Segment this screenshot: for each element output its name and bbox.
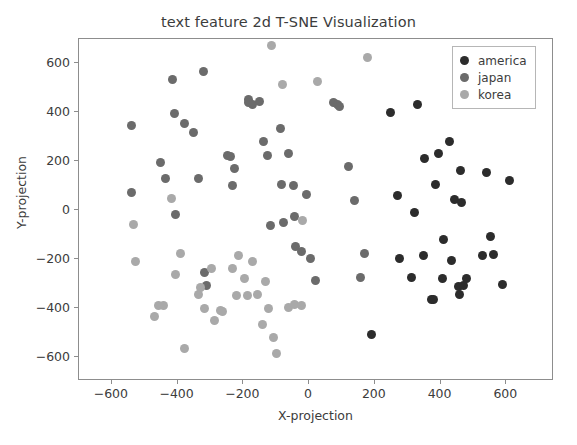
scatter-point bbox=[297, 247, 306, 256]
x-axis-tick-label: 0 bbox=[304, 386, 312, 401]
legend-marker-icon bbox=[460, 90, 469, 99]
scatter-point bbox=[277, 180, 286, 189]
scatter-point bbox=[258, 320, 267, 329]
scatter-point bbox=[228, 264, 237, 273]
legend-marker-icon bbox=[460, 56, 469, 65]
y-axis-tick bbox=[74, 209, 78, 210]
x-axis-tick bbox=[177, 380, 178, 384]
legend-item-korea: korea bbox=[460, 86, 527, 103]
scatter-point bbox=[284, 149, 293, 158]
y-axis-tick bbox=[74, 62, 78, 63]
legend-marker-icon bbox=[460, 73, 469, 82]
scatter-point bbox=[156, 158, 165, 167]
scatter-point bbox=[248, 257, 257, 266]
scatter-point bbox=[413, 100, 422, 109]
legend-item-label: korea bbox=[478, 88, 511, 102]
y-axis-tick bbox=[74, 111, 78, 112]
y-axis-tick bbox=[74, 160, 78, 161]
scatter-point bbox=[344, 162, 353, 171]
scatter-point bbox=[393, 191, 402, 200]
scatter-point bbox=[272, 349, 281, 358]
scatter-point bbox=[218, 307, 227, 316]
scatter-point bbox=[259, 137, 268, 146]
x-axis-tick-label: 400 bbox=[428, 386, 452, 401]
scatter-point bbox=[356, 273, 365, 282]
scatter-point bbox=[407, 273, 416, 282]
scatter-point bbox=[199, 67, 208, 76]
x-axis-tick bbox=[308, 380, 309, 384]
scatter-point bbox=[232, 291, 241, 300]
scatter-point bbox=[234, 251, 243, 260]
scatter-point bbox=[230, 164, 239, 173]
scatter-point bbox=[429, 295, 438, 304]
scatter-point bbox=[447, 256, 456, 265]
scatter-point bbox=[200, 304, 209, 313]
scatter-point bbox=[210, 316, 219, 325]
scatter-point bbox=[489, 250, 498, 259]
scatter-point bbox=[298, 216, 307, 225]
x-axis-tick-label: 600 bbox=[493, 386, 517, 401]
scatter-point bbox=[276, 124, 285, 133]
legend-item-label: japan bbox=[478, 71, 511, 85]
scatter-point bbox=[482, 168, 491, 177]
scatter-point bbox=[456, 166, 465, 175]
scatter-point bbox=[207, 264, 216, 273]
scatter-point bbox=[264, 304, 273, 313]
scatter-point bbox=[505, 176, 514, 185]
scatter-point bbox=[395, 254, 404, 263]
scatter-point bbox=[278, 80, 287, 89]
scatter-point bbox=[159, 301, 168, 310]
scatter-point bbox=[176, 249, 185, 258]
x-axis-tick-label: −400 bbox=[159, 386, 193, 401]
scatter-point bbox=[455, 290, 464, 299]
scatter-point bbox=[263, 151, 272, 160]
x-axis-label: X-projection bbox=[78, 408, 553, 423]
scatter-point bbox=[240, 274, 249, 283]
scatter-point bbox=[261, 277, 270, 286]
scatter-point bbox=[255, 97, 264, 106]
scatter-point bbox=[267, 41, 276, 50]
scatter-point bbox=[171, 210, 180, 219]
scatter-point bbox=[167, 194, 176, 203]
scatter-point bbox=[478, 251, 487, 260]
scatter-point bbox=[419, 251, 428, 260]
x-axis-tick-label: −600 bbox=[94, 386, 128, 401]
tsne-scatter-figure: text feature 2d T-SNE Visualization −600… bbox=[0, 0, 577, 445]
scatter-point bbox=[150, 312, 159, 321]
y-axis-label: Y-projection bbox=[14, 133, 29, 253]
y-axis-tick-label: −600 bbox=[10, 348, 70, 363]
scatter-point bbox=[367, 330, 376, 339]
scatter-point bbox=[180, 344, 189, 353]
x-axis-tick bbox=[505, 380, 506, 384]
y-axis-tick bbox=[74, 258, 78, 259]
scatter-point bbox=[313, 77, 322, 86]
chart-title: text feature 2d T-SNE Visualization bbox=[0, 14, 577, 30]
scatter-point bbox=[127, 121, 136, 130]
scatter-point bbox=[486, 232, 495, 241]
x-axis-tick-label: 200 bbox=[362, 386, 386, 401]
scatter-point bbox=[434, 149, 443, 158]
scatter-point bbox=[266, 221, 275, 230]
scatter-point bbox=[459, 281, 468, 290]
legend-item-japan: japan bbox=[460, 69, 527, 86]
scatter-point bbox=[445, 137, 454, 146]
scatter-point bbox=[129, 220, 138, 229]
scatter-point bbox=[279, 218, 288, 227]
scatter-point bbox=[350, 196, 359, 205]
scatter-point bbox=[180, 119, 189, 128]
scatter-point bbox=[420, 154, 429, 163]
scatter-point bbox=[311, 276, 320, 285]
scatter-point bbox=[189, 128, 198, 137]
scatter-point bbox=[194, 174, 203, 183]
legend-item-label: america bbox=[478, 54, 527, 68]
scatter-point bbox=[302, 190, 311, 199]
scatter-point bbox=[127, 188, 136, 197]
scatter-point bbox=[360, 249, 369, 258]
x-axis-tick bbox=[111, 380, 112, 384]
scatter-point bbox=[498, 280, 507, 289]
scatter-point bbox=[439, 235, 448, 244]
scatter-point bbox=[363, 53, 372, 62]
scatter-point bbox=[253, 290, 262, 299]
x-axis-tick bbox=[374, 380, 375, 384]
scatter-point bbox=[297, 301, 306, 310]
